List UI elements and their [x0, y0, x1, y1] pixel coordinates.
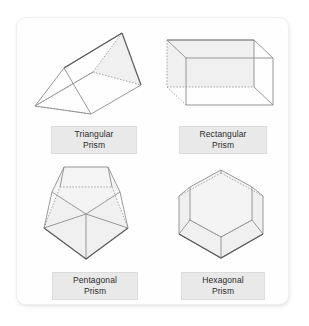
rectangular-prism-back-face: [167, 40, 254, 87]
label-line1-hexagonal-prism: Hexagonal: [202, 275, 244, 287]
figure-cell-hexagonal-prism: Hexagonal Prism: [157, 162, 285, 302]
rectangular-prism-connector-bottom-left: [167, 87, 186, 105]
rectangular-prism-drawing: [157, 22, 285, 127]
hexagonal-prism-drawing: [157, 162, 285, 274]
figure-cell-triangular-prism: Triangular Prism: [23, 22, 149, 157]
triangular-prism-bottom-front-edge: [91, 85, 141, 114]
prisms-illustration-root: Triangular Prism: [0, 0, 309, 326]
label-line1-rectangular-prism: Rectangular: [200, 129, 247, 141]
triangular-prism-near-face: [35, 68, 91, 114]
label-line2-pentagonal-prism: Prism: [84, 286, 106, 298]
triangular-prism-bottom-back-edge: [35, 72, 93, 106]
rectangular-prism-connector-bottom-right: [254, 87, 273, 105]
figure-cell-pentagonal-prism: Pentagonal Prism: [23, 162, 149, 302]
rectangular-prism-connector-top-right: [254, 40, 273, 58]
label-line2-rectangular-prism: Prism: [212, 140, 234, 152]
label-plate-hexagonal-prism: Hexagonal Prism: [181, 272, 265, 300]
illustration-card: Triangular Prism: [16, 17, 289, 305]
label-line2-hexagonal-prism: Prism: [212, 286, 234, 298]
pentagonal-prism-drawing: [23, 162, 149, 274]
label-plate-pentagonal-prism: Pentagonal Prism: [52, 272, 138, 300]
triangular-prism-drawing: [23, 22, 149, 127]
label-line1-pentagonal-prism: Pentagonal: [73, 275, 117, 287]
label-plate-triangular-prism: Triangular Prism: [51, 126, 137, 154]
label-plate-rectangular-prism: Rectangular Prism: [179, 126, 267, 154]
figure-cell-rectangular-prism: Rectangular Prism: [157, 22, 285, 157]
label-line2-triangular-prism: Prism: [83, 140, 105, 152]
triangular-prism-end-face: [93, 33, 141, 85]
label-line1-triangular-prism: Triangular: [75, 129, 114, 141]
